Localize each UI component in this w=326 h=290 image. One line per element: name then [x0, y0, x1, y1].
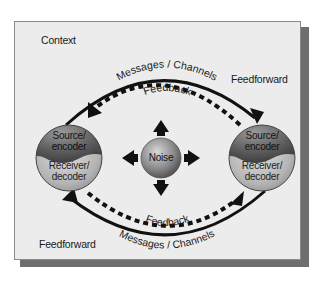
- right-receiver-line2: decoder: [234, 171, 290, 182]
- left-source-line2: encoder: [41, 141, 97, 152]
- right-receiver-label: Receiver/ decoder: [234, 160, 290, 182]
- right-source-line2: encoder: [234, 141, 290, 152]
- messages-channels-top: Messages / Channels: [114, 57, 219, 82]
- feedforward-arc-bottom: [70, 191, 265, 235]
- noise-label: Noise: [143, 152, 179, 163]
- left-receiver-line2: decoder: [41, 171, 97, 182]
- left-receiver-line1: Receiver/: [41, 160, 97, 171]
- left-source-label: Source/ encoder: [41, 130, 97, 152]
- feedforward-label-top: Feedforward: [231, 73, 288, 85]
- left-source-line1: Source/: [41, 130, 97, 141]
- feedforward-label-bottom: Feedforward: [39, 238, 96, 250]
- right-source-label: Source/ encoder: [234, 130, 290, 152]
- right-receiver-line1: Receiver/: [234, 160, 290, 171]
- context-label: Context: [41, 34, 76, 46]
- left-receiver-label: Receiver/ decoder: [41, 160, 97, 182]
- right-source-line1: Source/: [234, 130, 290, 141]
- arrowhead-bottom-right: [230, 191, 244, 206]
- feedback-bottom: Feedback: [144, 211, 191, 228]
